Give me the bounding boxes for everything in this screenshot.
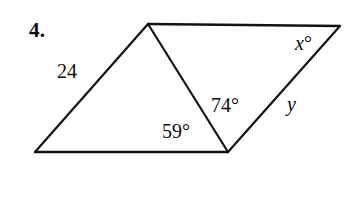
parallelogram-diagram	[0, 0, 358, 202]
problem-number-label: 4.	[29, 20, 45, 41]
angle-label-74: 74°	[211, 95, 239, 115]
angle-59-value: 59	[162, 120, 182, 142]
degree-symbol-icon: °	[304, 32, 312, 54]
right-side-line	[228, 26, 340, 152]
angle-label-59: 59°	[162, 121, 190, 141]
degree-symbol-icon: °	[231, 94, 239, 116]
top-side-line	[148, 24, 340, 26]
degree-symbol-icon: °	[182, 120, 190, 142]
side-length-label-24: 24	[57, 61, 77, 81]
left-side-line	[35, 24, 148, 152]
figure-canvas: 4. 24 59° 74° x° y	[0, 0, 358, 202]
angle-x-variable: x	[295, 32, 304, 54]
side-length-label-y: y	[287, 94, 296, 114]
angle-74-value: 74	[211, 94, 231, 116]
angle-label-x: x°	[295, 33, 312, 53]
